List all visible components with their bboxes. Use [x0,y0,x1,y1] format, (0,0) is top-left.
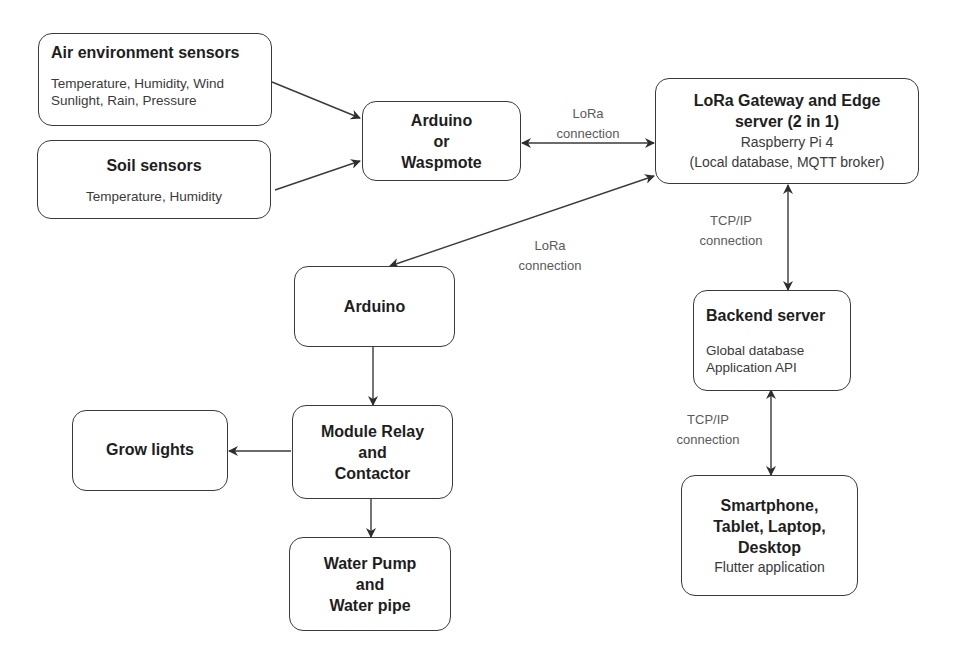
node-title-line: Tablet, Laptop, [713,516,826,537]
edge-label-line: TCP/IP [681,211,781,231]
edge-label-line: connection [658,430,758,450]
node-title: Grow lights [106,439,194,460]
node-client-devices: Smartphone, Tablet, Laptop, Desktop Flut… [681,475,858,596]
node-title-line: and [356,574,384,595]
edge-soil-to-arduino-waspmote [275,161,360,190]
node-lora-gateway-edge-server: LoRa Gateway and Edge server (2 in 1) Ra… [655,78,919,184]
edge-label-line: connection [538,124,638,144]
edge-label-lora-mid: LoRa connection [500,236,600,276]
node-arduino: Arduino [294,266,455,347]
node-title: Air environment sensors [51,42,240,63]
node-title-line: Smartphone, [721,495,819,516]
edge-label-line: connection [500,256,600,276]
node-title-line: Contactor [335,463,411,484]
node-title-line: Water pipe [329,595,410,616]
node-detail: Flutter application [714,558,825,577]
edge-label-tcp-top: TCP/IP connection [681,211,781,251]
node-detail: Sunlight, Rain, Pressure [51,92,197,109]
edge-air-to-arduino-waspmote [272,82,360,118]
node-grow-lights: Grow lights [72,410,228,491]
node-detail: Raspberry Pi 4 [741,132,834,152]
node-detail: (Local database, MQTT broker) [689,152,884,172]
node-title: Arduino [344,296,405,317]
node-title: Soil sensors [106,155,201,176]
node-title-line: and [358,442,386,463]
node-title-line: Desktop [738,537,801,558]
node-module-relay-contactor: Module Relay and Contactor [292,405,453,499]
architecture-diagram: Air environment sensors Temperature, Hum… [0,0,959,668]
node-detail: Global database [706,342,804,359]
node-arduino-or-waspmote: Arduino or Waspmote [362,101,521,181]
node-title-line: Waspmote [401,152,481,173]
edge-label-lora-top: LoRa connection [538,104,638,144]
node-title-line: or [434,131,450,152]
edge-label-line: TCP/IP [658,410,758,430]
node-title-line: LoRa Gateway and Edge [694,90,881,111]
node-title-line: Water Pump [324,553,417,574]
edge-label-line: connection [681,231,781,251]
node-title-line: Module Relay [321,421,424,442]
node-title-line: Arduino [411,110,472,131]
node-backend-server: Backend server Global database Applicati… [693,290,851,391]
node-title: Backend server [706,305,825,326]
node-air-environment-sensors: Air environment sensors Temperature, Hum… [38,33,272,126]
node-title-line: server (2 in 1) [735,111,839,132]
edge-label-tcp-bottom: TCP/IP connection [658,410,758,450]
node-water-pump: Water Pump and Water pipe [289,537,451,631]
node-soil-sensors: Soil sensors Temperature, Humidity [37,140,271,219]
node-detail: Temperature, Humidity, Wind [51,75,224,92]
node-detail: Application API [706,359,797,376]
node-detail: Temperature, Humidity [86,188,222,205]
edge-label-line: LoRa [500,236,600,256]
edge-label-line: LoRa [538,104,638,124]
